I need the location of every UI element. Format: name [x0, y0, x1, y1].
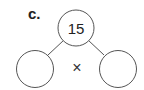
- right-connector: [88, 40, 104, 55]
- number-bond-diagram: 15 ×: [0, 0, 144, 90]
- multiply-operator: ×: [72, 59, 81, 76]
- top-value: 15: [68, 20, 85, 37]
- right-answer-circle[interactable]: [100, 51, 137, 88]
- left-answer-circle[interactable]: [17, 51, 54, 88]
- left-connector: [48, 40, 64, 55]
